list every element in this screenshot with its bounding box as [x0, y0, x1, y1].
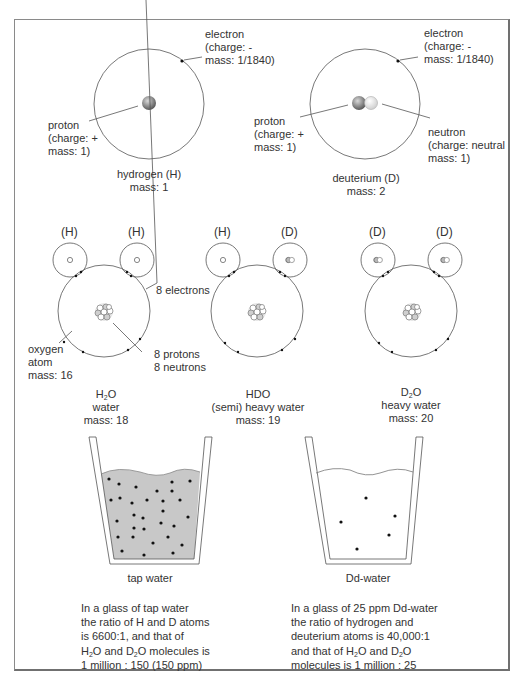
hdo-caption: HDO (semi) heavy water mass: 19: [198, 388, 318, 427]
hydrogen-proton-label: proton (charge: + mass: 1): [48, 119, 98, 158]
neutron-icon: [365, 97, 378, 110]
dd-water-glass: [305, 437, 423, 564]
atom-tag: (H): [61, 226, 78, 239]
formula: H2O: [56, 388, 156, 401]
electrons-label: 8 electrons: [156, 284, 210, 297]
hydrogen-atom: [89, 49, 204, 159]
nucleus-label: 8 protons 8 neutrons: [154, 348, 206, 374]
hdo-molecule: [206, 243, 307, 357]
electron-icon: [180, 59, 183, 62]
tap-water-title: tap water: [100, 572, 200, 585]
proton-icon: [352, 96, 366, 110]
atom-tag: (D): [281, 226, 298, 239]
formula: D2O: [361, 386, 461, 399]
deuterium-proton-label: proton (charge: + mass: 1): [254, 115, 304, 154]
dd-water-description: In a glass of 25 ppm Dd-water the ratio …: [291, 601, 438, 672]
deuterium-neutron-label: neutron (charge: neutral mass: 1): [428, 126, 505, 165]
tap-water-glass: [89, 437, 212, 564]
atom-tag: (H): [214, 226, 231, 239]
hydrogen-electron-label: electron (charge: - mass: 1/1840): [205, 28, 275, 67]
d2o-caption: D2O heavy water mass: 20: [361, 386, 461, 425]
formula: HDO: [198, 388, 318, 401]
hydrogen-caption: hydrogen (H) mass: 1: [99, 168, 199, 194]
electron-icon: [396, 59, 399, 62]
molecule-dots: [339, 496, 396, 550]
tap-water-description: In a glass of tap water the ratio of H a…: [81, 601, 210, 672]
atom-tag: (H): [128, 226, 145, 239]
diagram-artwork: [0, 0, 525, 685]
dd-water-title: Dd-water: [318, 572, 418, 585]
deuterium-caption: deuterium (D) mass: 2: [316, 172, 416, 198]
atom-tag: (D): [369, 226, 386, 239]
atom-tag: (D): [436, 226, 453, 239]
proton-icon: [142, 96, 156, 110]
deuterium-atom: [300, 49, 430, 159]
deuterium-electron-label: electron (charge: - mass: 1/1840): [424, 27, 494, 66]
oxygen-atom-label: oxygen atom mass: 16: [28, 343, 73, 382]
h2o-caption: H2O water mass: 18: [56, 388, 156, 427]
d2o-molecule: [361, 243, 462, 357]
